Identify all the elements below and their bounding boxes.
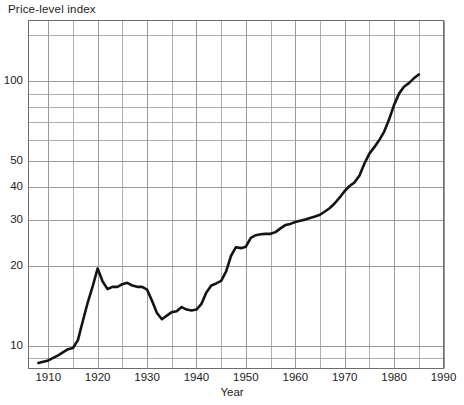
chart-figure: Price-level index 1020304050100 19101920… xyxy=(0,0,464,405)
y-tick-label-40: 40 xyxy=(0,180,23,192)
chart-canvas xyxy=(0,0,464,405)
gridlines xyxy=(29,21,445,369)
x-tick-label-1910: 1910 xyxy=(23,371,73,383)
x-axis-title: Year xyxy=(0,386,464,398)
x-tick-label-1960: 1960 xyxy=(270,371,320,383)
y-tick-label-100: 100 xyxy=(0,74,23,86)
y-tick-label-20: 20 xyxy=(0,259,23,271)
x-tick-label-1970: 1970 xyxy=(320,371,370,383)
plot-area: 1020304050100 19101920193019401950196019… xyxy=(0,0,464,405)
x-tick-label-1920: 1920 xyxy=(73,371,123,383)
x-tick-label-1950: 1950 xyxy=(221,371,271,383)
y-tick-label-50: 50 xyxy=(0,154,23,166)
y-tick-label-30: 30 xyxy=(0,213,23,225)
plot-border xyxy=(29,21,444,369)
x-tick-label-1990: 1990 xyxy=(419,371,464,383)
x-tick-label-1930: 1930 xyxy=(122,371,172,383)
price-level-line xyxy=(38,74,418,363)
y-tick-label-10: 10 xyxy=(0,339,23,351)
x-tick-label-1940: 1940 xyxy=(171,371,221,383)
x-tick-label-1980: 1980 xyxy=(369,371,419,383)
